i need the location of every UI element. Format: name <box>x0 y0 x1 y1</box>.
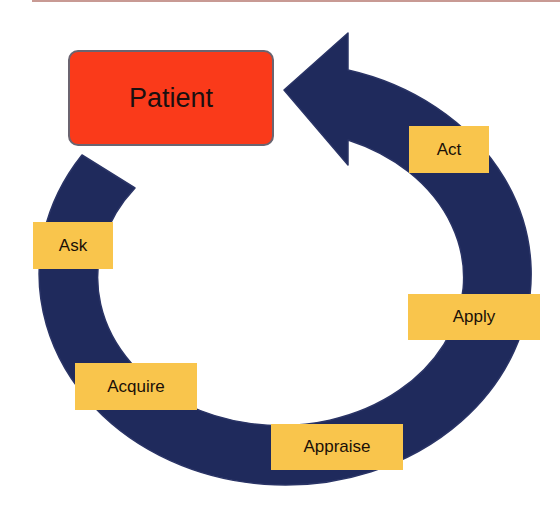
step-apply-label: Apply <box>453 307 496 327</box>
step-acquire-label: Acquire <box>107 377 165 397</box>
step-ask-label: Ask <box>59 236 87 256</box>
step-ask: Ask <box>33 222 113 269</box>
step-appraise-label: Appraise <box>303 437 370 457</box>
patient-label: Patient <box>129 83 213 114</box>
patient-node: Patient <box>68 50 274 146</box>
step-apply: Apply <box>408 294 540 340</box>
step-act-label: Act <box>437 140 462 160</box>
step-act: Act <box>409 126 489 173</box>
step-appraise: Appraise <box>271 424 403 470</box>
step-acquire: Acquire <box>75 363 197 410</box>
